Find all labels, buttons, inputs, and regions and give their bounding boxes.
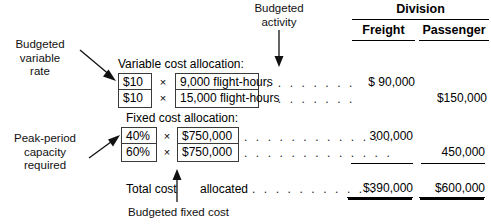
callout-budgeted-variable-rate: Budgeted variable rate bbox=[2, 38, 78, 79]
fixed-operator-passenger: × bbox=[157, 144, 177, 160]
column-header-passenger: Passenger bbox=[419, 23, 489, 37]
arrow-budgeted-activity-down bbox=[268, 30, 292, 70]
callout-budgeted-variable-rate-line-3: rate bbox=[2, 65, 78, 79]
total-cost-label-right: allocated bbox=[200, 182, 248, 196]
total-cost-label-left: Total cost bbox=[126, 182, 177, 196]
fixed-driver-box: $750,000 $750,000 bbox=[177, 127, 239, 162]
fixed-driver-cell-passenger: $750,000 bbox=[178, 144, 238, 160]
variable-operator-freight: × bbox=[152, 74, 174, 90]
fixed-driver-cell-freight: $750,000 bbox=[178, 128, 238, 144]
variable-section-heading: Variable cost allocation: bbox=[118, 57, 244, 71]
callout-budgeted-variable-rate-line-1: Budgeted bbox=[2, 38, 78, 52]
amount-variable-freight: $ 90,000 bbox=[345, 75, 415, 89]
subtotal-rule-freight bbox=[351, 163, 413, 164]
division-header-group: Division bbox=[352, 2, 489, 16]
total-amount-passenger: $600,000 bbox=[419, 181, 485, 198]
callout-budgeted-activity: Budgeted activity bbox=[238, 2, 320, 29]
fixed-rate-cell-passenger: 60% bbox=[122, 144, 156, 160]
variable-leader-passenger: . . . . . . . . bbox=[266, 92, 355, 106]
column-header-freight: Freight bbox=[352, 23, 415, 37]
variable-rate-box: $10 $10 bbox=[118, 73, 152, 108]
amount-fixed-freight: 300,000 bbox=[345, 129, 413, 143]
amount-variable-passenger: $150,000 bbox=[419, 91, 487, 105]
callout-peak-period-line-1: Peak-period bbox=[2, 132, 88, 146]
amount-fixed-passenger: 450,000 bbox=[419, 145, 485, 159]
variable-rate-cell-passenger: $10 bbox=[119, 90, 151, 106]
callout-peak-period-line-3: required bbox=[2, 159, 88, 173]
fixed-rate-cell-freight: 40% bbox=[122, 128, 156, 144]
callout-budgeted-activity-line-1: Budgeted bbox=[238, 2, 320, 16]
division-header-rule bbox=[352, 19, 489, 20]
cost-allocation-diagram: Division Freight Passenger Budgeted acti… bbox=[0, 0, 491, 224]
variable-leader-freight: . . . . . . . . bbox=[266, 76, 355, 90]
variable-driver-box: 9,000 flight-hours 15,000 flight-hours bbox=[175, 73, 259, 108]
arrow-peak-period-capacity bbox=[88, 134, 122, 160]
fixed-section-heading: Fixed cost allocation: bbox=[126, 111, 238, 125]
arrow-budgeted-variable-rate bbox=[78, 48, 118, 84]
callout-peak-period-line-2: capacity bbox=[2, 146, 88, 160]
division-header-label: Division bbox=[352, 2, 489, 16]
fixed-rate-box: 40% 60% bbox=[121, 127, 157, 162]
variable-driver-cell-freight: 9,000 flight-hours bbox=[176, 74, 258, 90]
variable-driver-cell-passenger: 15,000 flight-hours bbox=[176, 90, 258, 106]
column-header-rule-passenger bbox=[419, 40, 489, 41]
column-header-rule-freight bbox=[352, 40, 415, 41]
subtotal-rule-passenger bbox=[421, 163, 485, 164]
fixed-leader-passenger: . . . . . . . . . . . . . bbox=[244, 146, 392, 160]
fixed-operator-freight: × bbox=[157, 128, 177, 144]
variable-rate-cell-freight: $10 bbox=[119, 74, 151, 90]
callout-budgeted-variable-rate-line-2: variable bbox=[2, 52, 78, 66]
callout-budgeted-activity-line-2: activity bbox=[238, 16, 320, 30]
callout-peak-period-capacity: Peak-period capacity required bbox=[2, 132, 88, 173]
callout-budgeted-fixed-cost: Budgeted fixed cost bbox=[116, 206, 241, 220]
total-amount-freight: $390,000 bbox=[347, 181, 413, 198]
variable-operator-passenger: × bbox=[152, 90, 174, 106]
